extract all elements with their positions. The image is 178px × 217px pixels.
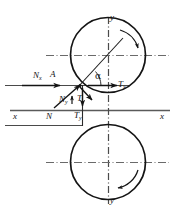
label-alpha-angle: α [95,72,101,81]
mechanics-diagram-figure: y y x x Nx A α Tx Ny T N Ty [0,0,178,217]
label-ty-component: Ty [74,111,82,120]
label-nx-subscript: x [39,75,42,81]
rotation-arrows [118,30,138,188]
label-ny-subscript: y [65,99,68,105]
label-ny-component: Ny [59,95,68,104]
label-y-bottom: y [110,196,114,205]
label-y-top: y [110,13,114,22]
label-tx-subscript: x [123,84,126,90]
label-ty-subscript: y [79,115,82,121]
lower-roller-rotation-arc [118,170,138,188]
label-x-left: x [13,112,17,121]
label-nx-component: Nx [33,71,42,80]
label-n-force: N [46,112,52,121]
contact-point-marker [79,84,82,87]
force-vectors [22,84,117,108]
label-contact-point-a: A [50,70,56,79]
diagram-canvas [0,0,178,217]
label-tx-component: Tx [118,80,126,89]
label-x-right: x [160,112,164,121]
label-t-force: T [77,94,82,103]
axis-lines [5,17,170,204]
